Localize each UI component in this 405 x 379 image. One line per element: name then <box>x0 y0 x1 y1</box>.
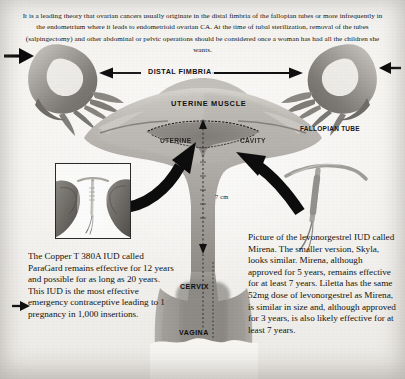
diagram-page: DISTAL FIMBRIA UTERINE MUSCLE UTERINE CA… <box>0 0 405 379</box>
scan-grain-overlay <box>0 0 405 379</box>
